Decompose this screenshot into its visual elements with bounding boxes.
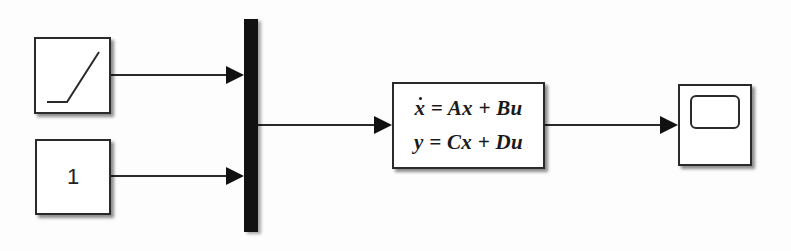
arrowhead-icon	[660, 116, 678, 134]
arrowhead-icon	[226, 66, 244, 84]
scope-icon	[690, 95, 740, 129]
constant-value: 1	[37, 164, 109, 190]
arrowhead-icon	[226, 167, 244, 185]
ramp-block[interactable]	[34, 37, 111, 114]
scope-block[interactable]	[678, 84, 752, 166]
diagram-canvas: 1 x = Ax + Bu y = Cx + Du	[0, 0, 791, 251]
arrowhead-icon	[374, 116, 392, 134]
state-equation-rhs: = Ax + Bu	[425, 96, 522, 120]
state-space-block[interactable]: x = Ax + Bu y = Cx + Du	[392, 82, 545, 169]
mux-block[interactable]	[244, 19, 258, 232]
x-dot-symbol: x	[414, 96, 425, 121]
ramp-icon	[36, 39, 109, 112]
constant-block[interactable]: 1	[35, 139, 111, 215]
output-equation: y = Cx + Du	[394, 130, 543, 155]
state-equation: x = Ax + Bu	[394, 96, 543, 121]
